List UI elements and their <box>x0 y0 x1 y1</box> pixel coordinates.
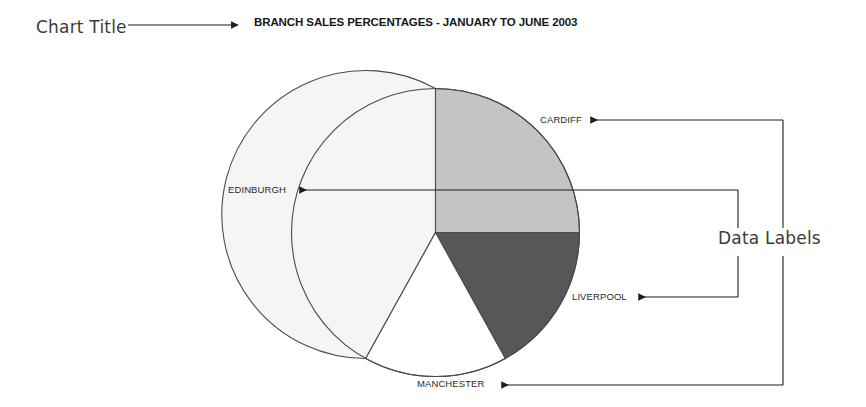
pie-slice-cardiff[interactable] <box>436 89 580 233</box>
chart-title-callout-label: Chart Title <box>36 17 127 37</box>
pie-label-manchester: MANCHESTER <box>417 378 485 389</box>
pie-label-liverpool: LIVERPOOL <box>572 291 627 302</box>
leader-line-liverpool <box>639 256 738 297</box>
chart-title: BRANCH SALES PERCENTAGES - JANUARY TO JU… <box>254 16 577 28</box>
data-labels-callout-label: Data Labels <box>718 228 821 248</box>
figure-canvas: Chart Title BRANCH SALES PERCENTAGES - J… <box>0 0 866 407</box>
pie-label-edinburgh: EDINBURGH <box>228 184 286 195</box>
figure-vector-layer <box>0 0 866 407</box>
pie-label-cardiff: CARDIFF <box>540 114 582 125</box>
leader-line-cardiff <box>591 120 783 228</box>
